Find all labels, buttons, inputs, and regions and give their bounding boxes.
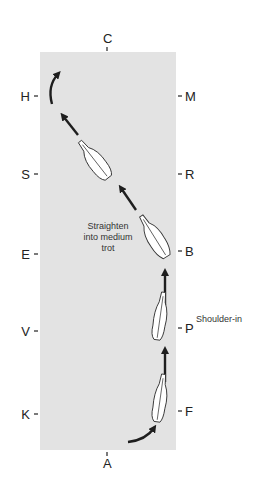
letter-a: A bbox=[103, 457, 112, 470]
letter-m: M bbox=[185, 90, 196, 103]
shoulder-in-annotation: Shoulder-in bbox=[196, 314, 242, 325]
arena-diagram: C A H S E V K M R B P F Straighten into … bbox=[0, 0, 257, 493]
letter-c: C bbox=[103, 32, 112, 45]
letter-b: B bbox=[185, 245, 194, 258]
letter-f: F bbox=[185, 405, 193, 418]
letter-p: P bbox=[185, 322, 194, 335]
letter-v: V bbox=[10, 325, 30, 338]
letter-k: K bbox=[10, 408, 30, 421]
letter-r: R bbox=[185, 168, 194, 181]
straighten-annotation: Straighten into medium trot bbox=[72, 221, 144, 254]
letter-h: H bbox=[10, 90, 30, 103]
annotation-line: into medium bbox=[72, 232, 144, 243]
annotation-line: trot bbox=[72, 243, 144, 254]
annotation-line: Straighten bbox=[72, 221, 144, 232]
letter-e: E bbox=[10, 248, 30, 261]
letter-s: S bbox=[10, 168, 30, 181]
